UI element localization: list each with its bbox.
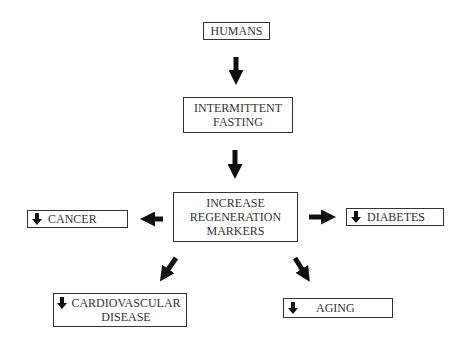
decrease-arrow-icon — [351, 211, 361, 223]
node-label: AGING — [316, 301, 355, 315]
flow-diagram: HUMANS INTERMITTENT FASTING INCREASE REG… — [0, 0, 471, 350]
node-increase-regeneration-markers: INCREASE REGENERATION MARKERS — [173, 192, 298, 242]
node-cardiovascular-disease: CARDIOVASCULAR DISEASE — [53, 293, 187, 327]
node-label: DIABETES — [367, 210, 425, 224]
node-label: CARDIOVASCULAR DISEASE — [59, 296, 180, 324]
node-cancer: CANCER — [27, 210, 128, 228]
decrease-arrow-icon — [57, 297, 67, 309]
decrease-arrow-icon — [32, 213, 42, 225]
node-label: INCREASE REGENERATION MARKERS — [190, 196, 281, 238]
node-intermittent-fasting: INTERMITTENT FASTING — [183, 97, 293, 133]
node-humans: HUMANS — [203, 22, 270, 40]
arrow-to-cardiovascular — [165, 258, 176, 274]
node-aging: AGING — [283, 298, 393, 318]
node-label: CANCER — [48, 212, 97, 226]
arrow-to-aging — [295, 258, 305, 274]
node-label: HUMANS — [210, 24, 262, 38]
node-diabetes: DIABETES — [346, 208, 444, 226]
node-label: INTERMITTENT FASTING — [194, 101, 282, 129]
decrease-arrow-icon — [288, 302, 298, 314]
